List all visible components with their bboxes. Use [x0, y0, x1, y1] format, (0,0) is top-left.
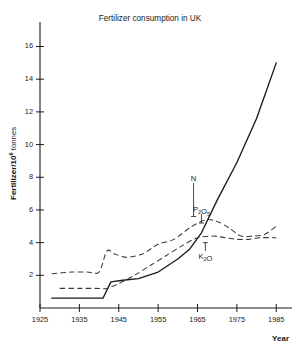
x-axis-tick-label: 1945: [111, 315, 127, 324]
series-line-K2O: [60, 236, 277, 289]
svg-text:Fertilizer/106 tonnes: Fertilizer/106 tonnes: [8, 127, 18, 200]
series-line-P2O5: [52, 219, 276, 273]
x-axis-tick-label: 1975: [229, 315, 245, 324]
x-axis-tick-label: 1925: [32, 315, 48, 324]
y-axis-tick-label: 4: [29, 238, 33, 247]
x-axis-tick-label: 1965: [189, 315, 205, 324]
y-axis-tick-label: 2: [29, 270, 33, 279]
x-axis-tick-label: 1955: [150, 315, 166, 324]
y-axis-ticks: 246810121416: [25, 41, 44, 279]
series-annotation-K2O: K2O: [198, 252, 212, 263]
series-line-N: [52, 63, 276, 298]
y-axis-title-base: Fertilizer/10: [9, 155, 18, 200]
x-axis-tick-label: 1935: [71, 315, 87, 324]
x-axis-ticks: 1925193519451955196519751985: [32, 304, 285, 324]
x-axis-tick-label: 1985: [268, 315, 284, 324]
x-axis-title: Year: [272, 334, 289, 343]
data-series-layer: [52, 63, 276, 298]
y-axis-tick-label: 12: [25, 107, 33, 116]
series-annotation-N: N: [191, 174, 196, 183]
series-annotation-P2O5: P2O5: [193, 205, 210, 217]
y-axis-title-unit: tonnes: [9, 127, 18, 153]
y-axis-tick-label: 6: [29, 205, 33, 214]
chart-title: Fertilizer consumption in UK: [99, 14, 202, 23]
y-axis-title: Fertilizer/106 tonnes: [8, 127, 18, 200]
y-axis-tick-label: 14: [25, 74, 33, 83]
fertilizer-consumption-line-chart: Fertilizer consumption in UK Fertilizer/…: [0, 0, 306, 351]
y-axis-tick-label: 10: [25, 140, 33, 149]
y-axis-tick-label: 16: [25, 41, 33, 50]
y-axis-tick-label: 8: [29, 172, 33, 181]
chart-container: Fertilizer consumption in UK Fertilizer/…: [0, 0, 306, 351]
